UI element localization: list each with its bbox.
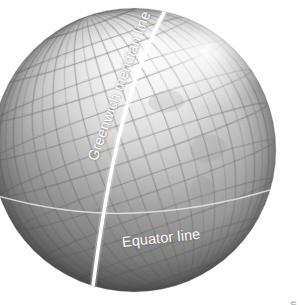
globe-illustration (0, 0, 298, 305)
image-credit: © NoPainNoGain/Shutterstock.com (288, 301, 298, 305)
globe-figure: Greenwich meridian line Equator line © N… (0, 0, 298, 305)
